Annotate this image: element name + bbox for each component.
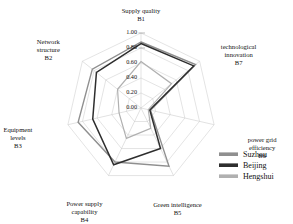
axis-label-b3: levels <box>10 134 26 141</box>
axis-label-b4: capability <box>71 208 98 215</box>
axis-label-b3: Equipment <box>3 126 32 133</box>
axis-label-b7: B7 <box>235 59 243 66</box>
axis-label-b3: B3 <box>14 142 22 149</box>
axis-label-b5: B5 <box>174 209 182 216</box>
radar-tick-label: 0.60 <box>126 58 137 65</box>
axis-label-b4: B4 <box>81 216 89 223</box>
axis-label-b2: B2 <box>45 54 53 61</box>
axis-label-b2: structure <box>37 46 60 53</box>
axis-label-b5: Green intelligence <box>153 201 202 208</box>
axis-label-b4: Power supply <box>66 200 103 207</box>
radar-chart-figure: 1.000.800.600.400.200.00 Supply qualityB… <box>0 0 293 224</box>
radar-tick-label: 0.20 <box>126 88 137 95</box>
radar-tick-label: 0.00 <box>126 103 137 110</box>
radar-series-beijing <box>93 44 194 165</box>
radar-axis-labels: Supply qualityB1technologicalinnovationB… <box>3 7 277 224</box>
radar-tick-label: 1.00 <box>126 28 137 35</box>
legend-label-hengshui[interactable]: Hengshui <box>243 172 274 181</box>
radar-spoke-b2 <box>82 61 141 108</box>
legend-swatch-suzhou[interactable] <box>219 152 238 156</box>
legend-label-suzhou[interactable]: Suzhou <box>243 150 267 159</box>
radar-chart-svg: 1.000.800.600.400.200.00 Supply qualityB… <box>0 0 293 224</box>
legend-label-beijing[interactable]: Beijing <box>243 161 267 170</box>
axis-label-b6: power grid <box>248 136 277 143</box>
axis-label-b1: Supply quality <box>122 7 161 14</box>
axis-label-b7: innovation <box>225 51 254 58</box>
legend-swatch-beijing[interactable] <box>219 163 238 167</box>
axis-label-b1: B1 <box>137 15 145 22</box>
radar-tick-label: 0.40 <box>126 73 137 80</box>
chart-legend[interactable]: SuzhouBeijingHengshui <box>219 150 274 181</box>
axis-label-b7: technological <box>221 43 257 50</box>
radar-tick-label: 0.80 <box>126 43 137 50</box>
radar-spokes <box>68 33 214 176</box>
axis-label-b2: Network <box>37 38 61 45</box>
legend-swatch-hengshui[interactable] <box>219 174 238 178</box>
